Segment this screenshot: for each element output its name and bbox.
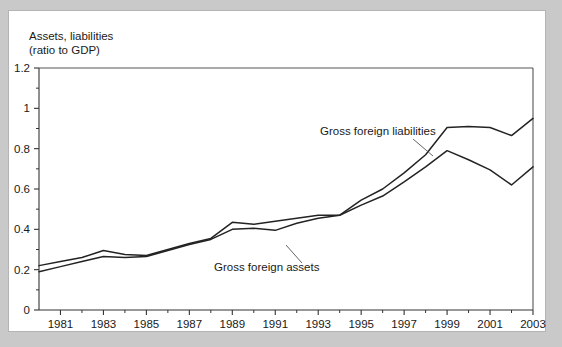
y-tick-label: 0.8 (14, 143, 30, 155)
annotation-label: Gross foreign liabilities (320, 125, 436, 137)
x-tick-label: 1987 (177, 318, 203, 330)
x-tick-label: 1991 (262, 318, 288, 330)
annotation-leader-line (413, 139, 433, 156)
x-tick-labels: 1981198319851987198919911993199519971999… (48, 318, 546, 330)
x-tick-label: 1999 (434, 318, 460, 330)
x-tick-label: 2003 (520, 318, 546, 330)
x-tick-label: 1993 (305, 318, 331, 330)
y-tick-label: 1 (24, 102, 30, 114)
x-tick-marks (60, 310, 533, 315)
annotation-label: Gross foreign assets (214, 261, 320, 273)
x-tick-label: 1989 (220, 318, 246, 330)
figure-page: Assets, liabilities (ratio to GDP) 00.20… (0, 0, 562, 347)
x-tick-label: 1985 (134, 318, 160, 330)
data-series-group (39, 118, 533, 271)
x-tick-label: 2001 (477, 318, 503, 330)
y-tick-label: 0.6 (14, 183, 30, 195)
y-tick-label: 0.4 (14, 223, 31, 235)
y-tick-label: 0 (24, 304, 30, 316)
x-tick-label: 1983 (91, 318, 117, 330)
series-line-gross-foreign-assets (39, 151, 533, 272)
x-tick-label: 1981 (48, 318, 74, 330)
x-tick-label: 1995 (348, 318, 374, 330)
y-tick-label: 1.2 (14, 62, 30, 74)
line-chart: 00.20.40.60.811.2 1981198319851987198919… (9, 11, 547, 333)
annotation-group: Gross foreign liabilitiesGross foreign a… (214, 125, 436, 273)
x-tick-label: 1997 (391, 318, 417, 330)
y-tick-labels: 00.20.40.60.811.2 (14, 62, 31, 316)
y-tick-marks (34, 68, 39, 310)
chart-panel: Assets, liabilities (ratio to GDP) 00.20… (8, 10, 546, 332)
y-tick-label: 0.2 (14, 264, 30, 276)
series-line-gross-foreign-liabilities (39, 118, 533, 265)
